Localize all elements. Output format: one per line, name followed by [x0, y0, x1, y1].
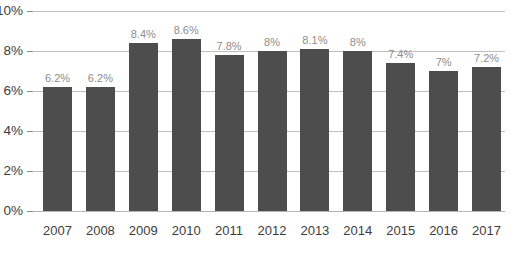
y-axis-label-2-text: 2%	[3, 164, 23, 178]
bar-value-label-2008: 6.2%	[75, 73, 125, 84]
y-tick-mark-2	[27, 171, 33, 172]
bar-2017[interactable]	[472, 67, 501, 211]
gridline-0-baseline	[33, 211, 505, 212]
y-axis-label-0-text: 0%	[3, 204, 23, 218]
y-tick-mark-6	[27, 91, 33, 92]
bar-2014[interactable]	[343, 51, 372, 211]
bar-2011[interactable]	[215, 55, 244, 211]
bar-chart-screenshot: 10% 8% 6% 4% 2% 0% 6.2%6.2%8.4%8.6%7.8%8…	[0, 0, 526, 255]
chart-plot-area: 10% 8% 6% 4% 2% 0% 6.2%6.2%8.4%8.6%7.8%8…	[0, 0, 526, 255]
y-tick-mark-10	[27, 11, 33, 12]
y-tick-mark-8	[27, 51, 33, 52]
gridline-10	[33, 11, 505, 12]
bar-2015[interactable]	[386, 63, 415, 211]
bar-value-label-2010: 8.6%	[161, 25, 211, 36]
bar-2008[interactable]	[86, 87, 115, 211]
y-axis-label-8-text: 8%	[3, 44, 23, 58]
y-axis-label-4-text: 4%	[3, 124, 23, 138]
bar-2010[interactable]	[172, 39, 201, 211]
bar-2013[interactable]	[300, 49, 329, 211]
y-axis-label-10-text: 10%	[0, 4, 23, 18]
bar-value-label-2017: 7.2%	[462, 53, 512, 64]
y-tick-mark-4	[27, 131, 33, 132]
bar-2009[interactable]	[129, 43, 158, 211]
bar-value-label-2014: 8%	[333, 37, 383, 48]
x-axis-label-2017: 2017	[462, 224, 512, 237]
y-axis-label-6-text: 6%	[3, 84, 23, 98]
bar-2007[interactable]	[43, 87, 72, 211]
bar-2016[interactable]	[429, 71, 458, 211]
bar-2012[interactable]	[258, 51, 287, 211]
y-tick-mark-0	[27, 211, 33, 212]
